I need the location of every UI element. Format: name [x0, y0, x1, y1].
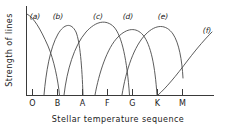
curve-label-f: (f) — [203, 26, 212, 35]
curve-c — [64, 22, 130, 95]
x-tick-label-K: K — [155, 99, 161, 108]
curve-label-b: (b) — [53, 12, 64, 21]
x-axis-title: Stellar temperature sequence — [52, 115, 184, 124]
curve-label-d: (d) — [123, 12, 134, 21]
curve-a — [27, 14, 60, 95]
x-tick-label-A: A — [80, 99, 86, 108]
curve-labels-group: (a) (b) (c) (d) (e) (f) — [30, 12, 212, 35]
x-tick-label-O: O — [29, 99, 36, 108]
x-tick-label-B: B — [55, 99, 61, 108]
curve-label-e: (e) — [158, 12, 169, 21]
x-tick-label-G: G — [129, 99, 135, 108]
stellar-line-strength-figure: (a) (b) (c) (d) (e) (f) O B A F G K M St… — [0, 0, 225, 128]
y-axis-title: Strength of lines — [5, 13, 14, 87]
x-tick-label-M: M — [179, 99, 186, 108]
x-axis-ticks — [33, 89, 183, 96]
x-tick-labels-group: O B A F G K M — [29, 99, 186, 108]
curve-label-c: (c) — [93, 12, 103, 21]
curves-group — [27, 14, 212, 95]
x-tick-label-F: F — [105, 99, 110, 108]
plot-canvas: (a) (b) (c) (d) (e) (f) O B A F G K M St… — [0, 0, 225, 128]
curve-f — [158, 32, 212, 95]
curve-label-a: (a) — [30, 12, 41, 21]
curve-b — [44, 25, 83, 95]
